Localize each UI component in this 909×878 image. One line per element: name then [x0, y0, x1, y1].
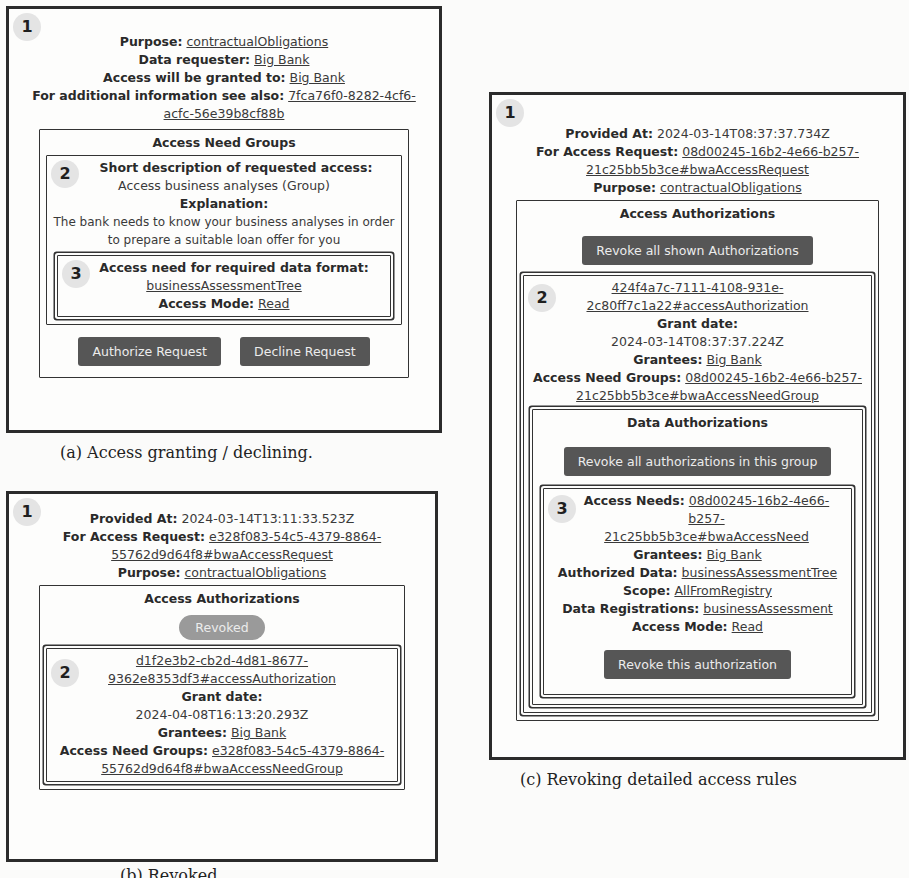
revoke-this-row: Revoke this authorization: [548, 650, 847, 679]
grantees2-link[interactable]: Big Bank: [706, 547, 761, 562]
short-desc-label: Short description of requested access:: [51, 159, 397, 177]
step-badge-2: 2: [51, 160, 79, 188]
data-registrations-link[interactable]: businessAssessment: [703, 601, 832, 616]
panel-revoked: 1 Provided At: 2024-03-14T13:11:33.523Z …: [6, 491, 438, 862]
purpose-row: Purpose: contractualObligations: [15, 33, 433, 51]
additional-info-link-cont[interactable]: acfc-56e39b8cf88b: [164, 106, 285, 121]
access-needs-label: Access Needs:: [584, 493, 685, 508]
requester-row: Data requester: Big Bank: [15, 51, 433, 69]
purpose-label: Purpose:: [118, 565, 181, 580]
data-format-label: Access need for required data format:: [62, 259, 386, 277]
provided-at-row: Provided At: 2024-03-14T08:37:37.734Z: [498, 125, 897, 143]
revoked-status-row: Revoked: [44, 615, 400, 640]
purpose-row: Purpose: contractualObligations: [498, 179, 897, 197]
requester-link[interactable]: Big Bank: [254, 52, 309, 67]
access-authorizations-section: Access Authorizations Revoke all shown A…: [516, 200, 879, 721]
purpose-label: Purpose:: [593, 180, 656, 195]
access-mode-label: Access Mode:: [158, 296, 254, 311]
grant-date-value: 2024-04-08T16:13:20.293Z: [51, 706, 393, 724]
access-need-group-card: 2 Short description of requested access:…: [46, 155, 402, 325]
access-request-link-cont[interactable]: 55762d9d64f8#bwaAccessRequest: [111, 547, 333, 562]
access-request-link[interactable]: e328f083-54c5-4379-8864-: [209, 529, 381, 544]
step-badge-2: 2: [528, 284, 556, 312]
scope-link[interactable]: AllFromRegistry: [674, 583, 772, 598]
access-need-groups-link[interactable]: 08d00245-16b2-4e66-b257-: [685, 370, 862, 385]
purpose-label: Purpose:: [120, 34, 183, 49]
grantees2-row: Grantees: Big Bank: [548, 546, 847, 564]
access-request-label: For Access Request:: [536, 144, 678, 159]
step-badge-3: 3: [62, 260, 90, 288]
purpose-link[interactable]: contractualObligations: [184, 565, 326, 580]
access-authorizations-title: Access Authorizations: [521, 204, 874, 224]
step-badge-1: 1: [13, 498, 41, 526]
authorization-id-link-cont[interactable]: 2c80ff7c1a22#accessAuthorization: [586, 298, 808, 313]
authorization-id-row: 424f4a7c-7111-4108-931e- 2c80ff7c1a22#ac…: [528, 279, 867, 315]
data-format-link[interactable]: businessAssessmentTree: [146, 278, 302, 293]
grant-date-value: 2024-03-14T08:37:37.224Z: [528, 333, 867, 351]
grantees-label: Grantees:: [633, 352, 702, 367]
access-need-groups-link[interactable]: e328f083-54c5-4379-8864-: [212, 743, 384, 758]
access-need-groups-row: Access Need Groups: e328f083-54c5-4379-8…: [51, 742, 393, 778]
access-need-groups-link-cont[interactable]: 55762d9d64f8#bwaAccessNeedGroup: [101, 761, 343, 776]
authorized-data-row: Authorized Data: businessAssessmentTree: [548, 564, 847, 582]
step-badge-1: 1: [496, 99, 524, 127]
caption-a: (a) Access granting / declining.: [60, 443, 313, 462]
access-mode-link[interactable]: Read: [732, 619, 763, 634]
grantees2-label: Grantees:: [633, 547, 702, 562]
authorization-id-link[interactable]: 424f4a7c-7111-4108-931e-: [612, 280, 784, 295]
access-needs-link[interactable]: 08d00245-16b2-4e66-b257-: [688, 493, 829, 526]
scope-label: Scope:: [623, 583, 670, 598]
access-mode-row: Access Mode: Read: [548, 618, 847, 636]
authorization-id-link[interactable]: d1f2e3b2-cb2d-4d81-8677-: [136, 653, 308, 668]
access-authorizations-title: Access Authorizations: [44, 589, 400, 609]
grantees-link[interactable]: Big Bank: [706, 352, 761, 367]
access-need-groups-title: Access Need Groups: [44, 133, 404, 153]
caption-c: (c) Revoking detailed access rules: [520, 770, 797, 789]
access-need-card: 3 Access need for required data format: …: [57, 255, 391, 317]
additional-info-label: For additional information see also:: [32, 88, 284, 103]
additional-info-link[interactable]: 7fca76f0-8282-4cf6-: [288, 88, 416, 103]
panel-revoking-detailed: 1 Provided At: 2024-03-14T08:37:37.734Z …: [489, 92, 906, 760]
authorized-data-label: Authorized Data:: [558, 565, 678, 580]
granted-to-label: Access will be granted to:: [103, 70, 286, 85]
access-request-link-cont[interactable]: 21c25bb5b3ce#bwaAccessRequest: [586, 162, 809, 177]
purpose-link[interactable]: contractualObligations: [186, 34, 328, 49]
access-need-groups-link-cont[interactable]: 21c25bb5b3ce#bwaAccessNeedGroup: [576, 388, 819, 403]
access-request-row: For Access Request: e328f083-54c5-4379-8…: [15, 528, 429, 564]
access-need-groups-label: Access Need Groups:: [60, 743, 208, 758]
authorized-data-link[interactable]: businessAssessmentTree: [682, 565, 838, 580]
authorize-request-button[interactable]: Authorize Request: [78, 337, 221, 366]
caption-b: (b) Revoked...: [120, 866, 233, 878]
access-needs-link-cont[interactable]: 21c25bb5b3ce#bwaAccessNeed: [604, 529, 809, 544]
provided-at-label: Provided At:: [90, 511, 178, 526]
access-authorization-card: 2 d1f2e3b2-cb2d-4d81-8677- 9362e8353df3#…: [46, 648, 398, 782]
data-authorizations-section: Data Authorizations Revoke all authoriza…: [532, 409, 863, 705]
revoke-all-row: Revoke all shown Authorizations: [521, 236, 874, 265]
data-authorization-card: 3 Access Needs: 08d00245-16b2-4e66-b257-…: [543, 488, 852, 695]
grantees-link[interactable]: Big Bank: [231, 725, 286, 740]
access-mode-label: Access Mode:: [632, 619, 728, 634]
grantees-label: Grantees:: [158, 725, 227, 740]
revoked-status-badge: Revoked: [179, 615, 264, 640]
request-actions: Authorize Request Decline Request: [44, 337, 404, 366]
access-needs-row: Access Needs: 08d00245-16b2-4e66-b257- 2…: [548, 492, 847, 546]
revoke-group-button[interactable]: Revoke all authorizations in this group: [564, 447, 832, 476]
revoke-group-row: Revoke all authorizations in this group: [537, 447, 858, 476]
authorization-id-row: d1f2e3b2-cb2d-4d81-8677- 9362e8353df3#ac…: [51, 652, 393, 688]
access-request-link[interactable]: 08d00245-16b2-4e66-b257-: [682, 144, 859, 159]
purpose-row: Purpose: contractualObligations: [15, 564, 429, 582]
explanation-line-1: The bank needs to know your business ana…: [53, 215, 394, 229]
access-mode-link[interactable]: Read: [258, 296, 289, 311]
data-authorizations-title: Data Authorizations: [537, 413, 858, 433]
data-registrations-label: Data Registrations:: [562, 601, 699, 616]
data-registrations-row: Data Registrations: businessAssessment: [548, 600, 847, 618]
grantees-row: Grantees: Big Bank: [528, 351, 867, 369]
purpose-link[interactable]: contractualObligations: [660, 180, 802, 195]
granted-to-link[interactable]: Big Bank: [290, 70, 345, 85]
provided-at-value: 2024-03-14T08:37:37.734Z: [657, 126, 830, 141]
revoke-all-shown-button[interactable]: Revoke all shown Authorizations: [582, 236, 812, 265]
authorization-id-link-cont[interactable]: 9362e8353df3#accessAuthorization: [108, 671, 336, 686]
step-badge-2: 2: [51, 659, 79, 687]
decline-request-button[interactable]: Decline Request: [240, 337, 370, 366]
revoke-this-authorization-button[interactable]: Revoke this authorization: [604, 650, 791, 679]
